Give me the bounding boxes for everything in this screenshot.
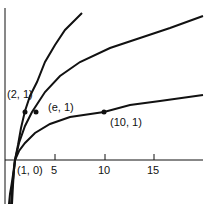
label-e-1: (e, 1) <box>48 101 74 113</box>
label-10-1: (10, 1) <box>110 116 142 128</box>
label-1-0: (1, 0) <box>17 164 43 176</box>
log-curves-chart: 5 10 15 (2, 1) (e, 1) (10, 1) (1, 0) <box>0 0 207 204</box>
x-tick-label-5: 5 <box>51 164 57 176</box>
point-e-1 <box>34 110 39 115</box>
curve-log10 <box>12 95 203 204</box>
point-2-1 <box>23 110 28 115</box>
x-tick-label-10: 10 <box>98 164 110 176</box>
point-10-1 <box>102 110 107 115</box>
x-tick-label-15: 15 <box>147 164 159 176</box>
label-2-1: (2, 1) <box>7 88 33 100</box>
